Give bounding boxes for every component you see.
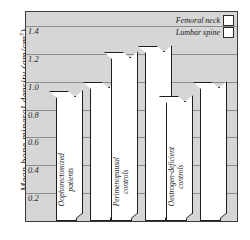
bar-group: Perimenopausalcontrols [111, 12, 174, 221]
legend-label: Lumbar spine [176, 28, 220, 37]
bar-side-face [220, 81, 227, 219]
category-label: Oophorectomizedpatients [58, 153, 75, 206]
legend-item-lumbar-spine: Lumbar spine [176, 27, 234, 38]
bar-side-face [186, 95, 193, 219]
legend-swatch-lumbar-spine [223, 27, 234, 38]
bar: Oestrogen-deficientcontrols [166, 101, 187, 221]
bone-mineral-density-chart: Mean bone mineral density (gm/cm3) 1.41.… [0, 0, 250, 240]
bar-side-face [131, 51, 138, 219]
legend-label: Femoral neck [176, 16, 220, 25]
category-label: Perimenopausalcontrols [113, 157, 130, 206]
legend: Femoral neck Lumbar spine [176, 15, 234, 38]
bars-layer: OophorectomizedpatientsPerimenopausalcon… [26, 12, 237, 221]
bar-side-face [76, 90, 83, 219]
bar-group: Oestrogen-deficientcontrols [166, 12, 229, 221]
bar-top-face [138, 46, 165, 53]
bar [90, 87, 111, 221]
bar-top-face [83, 82, 110, 89]
bar [200, 87, 221, 221]
plot-area: 1.41.21.00.80.60.40.2 Oophorectomizedpat… [25, 11, 238, 222]
bar: Perimenopausalcontrols [111, 57, 132, 221]
bar: Oophorectomizedpatients [56, 96, 77, 221]
legend-item-femoral-neck: Femoral neck [176, 15, 234, 26]
legend-swatch-femoral-neck [223, 15, 234, 26]
bar-group: Oophorectomizedpatients [56, 12, 119, 221]
category-label: Oestrogen-deficientcontrols [168, 147, 185, 206]
bar-top-face [193, 82, 220, 89]
bar-top-face [49, 91, 76, 98]
bar [145, 51, 166, 221]
